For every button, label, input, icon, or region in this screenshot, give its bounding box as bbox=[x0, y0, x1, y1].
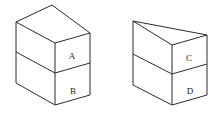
solids-diagram: A B bbox=[0, 0, 224, 123]
face-label-a: A bbox=[69, 51, 76, 61]
face-label-c: C bbox=[186, 53, 192, 63]
figure-canvas: A B bbox=[0, 0, 224, 123]
right-solid: C D bbox=[133, 21, 207, 105]
face-label-d: D bbox=[187, 86, 194, 96]
left-solid: A B bbox=[16, 5, 90, 105]
face-label-b: B bbox=[70, 86, 76, 96]
